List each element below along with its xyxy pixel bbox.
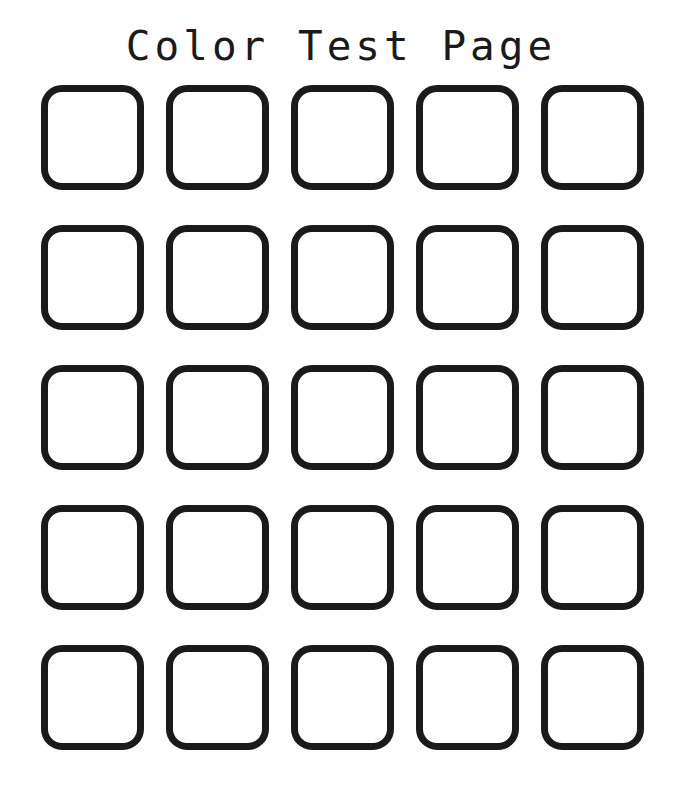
color-swatch[interactable] [166, 365, 269, 470]
color-swatch[interactable] [41, 645, 144, 750]
color-swatch[interactable] [416, 645, 519, 750]
color-swatch[interactable] [166, 225, 269, 330]
color-swatch[interactable] [291, 645, 394, 750]
color-swatch[interactable] [41, 505, 144, 610]
color-swatch[interactable] [416, 85, 519, 190]
color-swatch[interactable] [291, 225, 394, 330]
color-test-page: Color Test Page [0, 0, 682, 785]
color-swatch[interactable] [416, 365, 519, 470]
color-swatch[interactable] [41, 365, 144, 470]
color-swatch[interactable] [291, 85, 394, 190]
color-swatch[interactable] [41, 85, 144, 190]
color-swatch-grid [41, 85, 652, 750]
color-swatch[interactable] [41, 225, 144, 330]
color-swatch[interactable] [166, 85, 269, 190]
color-swatch[interactable] [416, 225, 519, 330]
color-swatch[interactable] [416, 505, 519, 610]
color-swatch[interactable] [166, 645, 269, 750]
color-swatch[interactable] [541, 645, 644, 750]
color-swatch[interactable] [166, 505, 269, 610]
color-swatch[interactable] [291, 505, 394, 610]
color-swatch[interactable] [541, 225, 644, 330]
color-swatch[interactable] [541, 365, 644, 470]
color-swatch[interactable] [291, 365, 394, 470]
color-swatch[interactable] [541, 85, 644, 190]
page-title: Color Test Page [0, 22, 682, 70]
color-swatch[interactable] [541, 505, 644, 610]
